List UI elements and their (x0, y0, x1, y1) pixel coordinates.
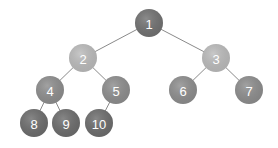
tree-node-3: 3 (202, 44, 230, 72)
tree-node-2: 2 (69, 44, 97, 72)
binary-tree-diagram: 12345678910 (0, 0, 278, 148)
node-label: 7 (245, 84, 252, 99)
tree-node-4: 4 (36, 76, 64, 104)
tree-node-10: 10 (85, 109, 113, 137)
node-label: 1 (145, 17, 152, 32)
node-label: 3 (212, 52, 219, 67)
tree-node-8: 8 (20, 109, 48, 137)
node-label: 4 (46, 84, 53, 99)
node-label: 6 (179, 84, 186, 99)
tree-canvas: 12345678910 (0, 0, 278, 148)
tree-node-7: 7 (235, 76, 263, 104)
tree-node-9: 9 (52, 109, 80, 137)
tree-node-5: 5 (102, 76, 130, 104)
node-label: 9 (62, 117, 69, 132)
node-label: 8 (30, 117, 37, 132)
node-label: 2 (79, 52, 86, 67)
node-label: 10 (92, 117, 106, 132)
node-label: 5 (112, 84, 119, 99)
tree-node-6: 6 (169, 76, 197, 104)
tree-edges (34, 23, 249, 123)
tree-node-1: 1 (135, 9, 163, 37)
tree-nodes: 12345678910 (20, 9, 263, 137)
